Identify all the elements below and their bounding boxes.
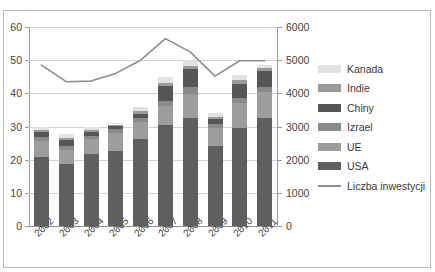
legend-color-swatch [318,123,341,131]
legend-item-indie[interactable]: Indie [318,79,430,99]
liczba-inwestycji-line [41,39,264,82]
legend-label: Liczba inwestycji [347,181,425,192]
legend-item-ue[interactable]: UE [318,137,430,157]
legend-label: Izrael [347,122,373,133]
legend-line-marker [318,185,341,187]
legend-item-chiny[interactable]: Chiny [318,98,430,118]
legend-color-swatch [318,84,341,92]
legend-color-swatch [318,65,341,73]
legend-label: UE [347,142,362,153]
legend-item-usa[interactable]: USA [318,157,430,177]
legend-item-kanada[interactable]: Kanada [318,59,430,79]
legend-item-izrael[interactable]: Izrael [318,118,430,138]
legend-color-swatch [318,104,341,112]
legend-label: Chiny [347,103,374,114]
legend-color-swatch [318,162,341,170]
chart-root: 0102030405060 0100020003000400050006000 … [0,0,435,272]
legend-label: Indie [347,83,370,94]
legend-label: Kanada [347,64,383,75]
legend-label: USA [347,161,369,172]
legend-color-swatch [318,143,341,151]
chart-legend: KanadaIndieChinyIzraelUEUSALiczba inwest… [318,59,430,196]
legend-item-liczba-inwestycji[interactable]: Liczba inwestycji [318,176,430,196]
